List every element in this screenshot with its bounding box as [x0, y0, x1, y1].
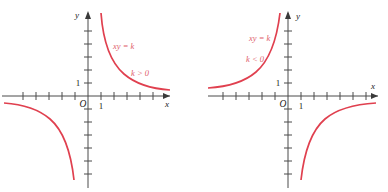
left-origin-label: O: [80, 99, 87, 109]
right-panel: y x O 1 1 xy = k k < 0: [208, 11, 378, 188]
hyperbola-figure: y x O 1 1 xy = k k > 0: [0, 0, 388, 192]
right-curve-quadrant-2: [208, 13, 280, 88]
right-y-axis-label: y: [295, 11, 300, 21]
left-condition-label: k > 0: [131, 68, 150, 78]
left-panel: y x O 1 1 xy = k k > 0: [2, 10, 170, 188]
left-y-tick-label-1: 1: [76, 78, 81, 88]
left-curve-quadrant-3: [4, 103, 74, 180]
right-x-tick-label-1: 1: [299, 101, 304, 111]
left-equation-label: xy = k: [112, 41, 135, 51]
right-equation-label: xy = k: [248, 33, 271, 43]
left-y-axis-arrowhead: [85, 11, 91, 19]
left-x-axis-label: x: [164, 99, 169, 109]
right-origin-label: O: [280, 99, 287, 109]
left-y-axis-label: y: [74, 10, 79, 20]
right-x-axis-label: x: [370, 81, 375, 91]
right-x-axis-arrowhead: [371, 93, 378, 99]
right-y-tick-label-1: 1: [276, 78, 281, 88]
right-y-axis-arrowhead: [285, 11, 291, 19]
left-curve-quadrant-1: [101, 13, 170, 90]
right-condition-label: k < 0: [246, 54, 265, 64]
right-curve-quadrant-4: [301, 103, 376, 180]
left-x-tick-label-1: 1: [99, 101, 104, 111]
